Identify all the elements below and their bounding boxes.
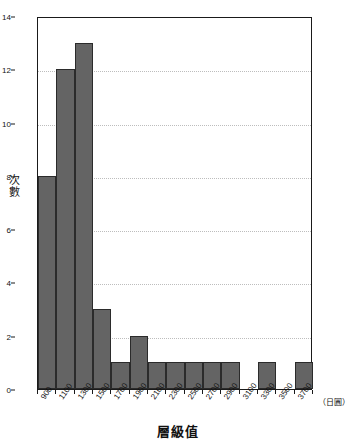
y-tick-mark (11, 390, 15, 391)
y-axis: 次數 02468101214 (0, 0, 37, 441)
x-axis-title: 層級值 (0, 421, 355, 440)
bar (75, 43, 93, 389)
x-tick-mark (294, 390, 295, 394)
bar (38, 176, 56, 389)
y-tick-mark (11, 123, 15, 124)
bar-series (38, 18, 311, 389)
x-tick-mark (110, 390, 111, 394)
x-tick-mark (74, 390, 75, 394)
x-axis-unit-label: （日圓） (318, 396, 350, 407)
y-axis-title-char: 數 (8, 187, 20, 199)
x-tick-mark (257, 390, 258, 394)
bar (130, 336, 148, 389)
y-tick-mark (11, 336, 15, 337)
y-tick-label: 14 (2, 13, 11, 22)
plot-area (37, 17, 312, 390)
y-tick-mark (11, 283, 15, 284)
chart-title (95, 0, 265, 8)
x-tick-mark (239, 390, 240, 394)
x-tick-mark (92, 390, 93, 394)
bar (56, 69, 74, 389)
y-tick-label: 12 (2, 66, 11, 75)
y-tick-label: 10 (2, 119, 11, 128)
x-tick-mark (220, 390, 221, 394)
y-tick-mark (11, 176, 15, 177)
x-tick-mark (147, 390, 148, 394)
histogram-figure: 次數 02468101214 （日圓） 層級值 9001100130015001… (0, 0, 355, 441)
x-tick-mark (37, 390, 38, 394)
y-tick-mark (11, 230, 15, 231)
x-tick-mark (202, 390, 203, 394)
x-tick-mark (275, 390, 276, 394)
x-tick-mark (165, 390, 166, 394)
x-tick-mark (184, 390, 185, 394)
bar (93, 309, 111, 389)
y-tick-mark (11, 17, 15, 18)
y-tick-mark (11, 70, 15, 71)
x-tick-mark (129, 390, 130, 394)
x-tick-mark (55, 390, 56, 394)
x-tick-mark (312, 390, 313, 394)
